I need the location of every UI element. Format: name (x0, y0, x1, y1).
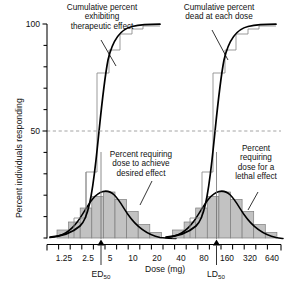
x-tick-7: 80 (199, 253, 208, 263)
dose-response-figure: 100 50 Percent individuals responding 1.… (0, 0, 289, 286)
chart-canvas (0, 0, 289, 286)
ld50-label: LD50 (207, 269, 225, 279)
x-tick-5: 20 (152, 253, 161, 263)
x-tick-4: 10 (128, 253, 137, 263)
ld50-label-subscript: 50 (218, 273, 225, 280)
x-tick-2: 2.5 (82, 253, 94, 263)
x-axis (47, 245, 281, 251)
annotation-lethal-distribution: Percent requiring dose for a lethal effe… (226, 144, 286, 182)
y-axis (43, 24, 48, 239)
leader-lethal-cumulative (212, 30, 228, 60)
x-tick-6: 40 (176, 253, 185, 263)
leader-therapeutic-distribution (140, 181, 152, 205)
ld50-label-text: LD (207, 269, 218, 279)
x-axis-title: Dose (mg) (145, 264, 185, 274)
x-tick-9: 320 (243, 253, 257, 263)
x-tick-1: 1.25 (56, 253, 72, 263)
y-axis-title: Percent individuals responding (14, 98, 24, 218)
x-tick-3: 5 (108, 253, 113, 263)
y-tick-100: 100 (18, 19, 40, 29)
ed50-label-subscript: 50 (104, 273, 111, 280)
annotation-lethal-cumulative: Cumulative percent dead at each dose (157, 3, 281, 22)
x-tick-8: 160 (220, 253, 234, 263)
leader-lethal-distribution (248, 192, 258, 210)
annotation-therapeutic-distribution: Percent requiring dose to achieve desire… (94, 150, 188, 178)
ed50-label-text: ED (92, 269, 104, 279)
x-tick-10: 640 (265, 253, 279, 263)
ed50-label: ED50 (92, 269, 111, 279)
annotation-therapeutic-cumulative: Cumulative percent exhibiting therapeuti… (44, 3, 160, 31)
